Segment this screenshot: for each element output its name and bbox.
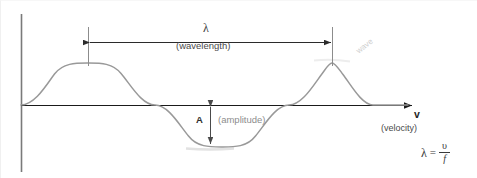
formula-denominator: f xyxy=(441,153,448,164)
wavelength-formula: λ = υ f xyxy=(421,141,450,164)
amplitude-symbol: A xyxy=(196,115,203,125)
formula-equals: = xyxy=(430,147,436,158)
wavelength-symbol: λ xyxy=(203,22,209,34)
amplitude-label: (amplitude) xyxy=(218,115,266,125)
wave-diagram-canvas xyxy=(0,0,477,178)
velocity-axis-symbol: v xyxy=(414,109,420,120)
formula-fraction: υ f xyxy=(439,141,450,164)
wavelength-label: (wavelength) xyxy=(176,41,230,51)
velocity-axis-label: (velocity) xyxy=(381,124,417,133)
wave-diagram: λ (wavelength) A (amplitude) v (velocity… xyxy=(0,0,477,178)
trough-shadow xyxy=(186,149,234,150)
formula-lambda: λ xyxy=(421,147,427,159)
formula-numerator: υ xyxy=(440,141,449,152)
